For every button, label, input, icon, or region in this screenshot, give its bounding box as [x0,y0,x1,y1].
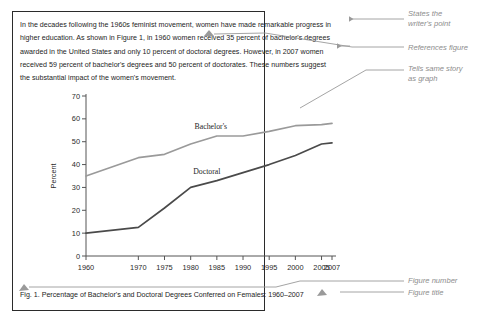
figure-caption: Fig. 1. Percentage of Bachelor's and Doc… [20,291,304,299]
y-tick-label: 0 [76,252,80,261]
x-tick-label: 1960 [78,263,94,272]
x-tick-label: 1970 [130,263,146,272]
y-tick-label: 60 [72,114,80,123]
figure-chart: 010203040506070Percent196019701975198019… [40,88,340,283]
x-tick-label: 1985 [209,263,225,272]
annotation-figure-title: Figure title [408,288,443,298]
y-tick-label: 50 [72,137,80,146]
x-tick-label: 1975 [156,263,172,272]
series-label-doctoral: Doctoral [193,167,221,176]
y-tick-label: 70 [72,92,80,101]
body-paragraph: In the decades following the 1960s femin… [20,19,332,86]
x-tick-label: 2000 [287,263,303,272]
y-tick-label: 30 [72,183,80,192]
y-tick-label: 40 [72,160,80,169]
x-tick-label: 1980 [182,263,198,272]
series-line-doctoral [86,143,332,233]
line-chart-svg: 010203040506070Percent196019701975198019… [40,88,340,283]
x-tick-label: 1995 [261,263,277,272]
annotation-figure-number: Figure number [408,276,457,286]
x-tick-label: 2007 [324,263,340,272]
screenshot-root: In the decades following the 1960s femin… [0,0,493,326]
annotation-states-point: States the writer's point [408,9,450,30]
x-tick-label: 1990 [235,263,251,272]
annotation-references-figure: References figure [408,43,468,53]
y-tick-label: 20 [72,206,80,215]
y-axis-title: Percent [49,164,58,189]
series-label-bachelors: Bachelor's [195,122,228,131]
arrowhead-figure-title [317,289,327,296]
y-tick-label: 10 [72,229,80,238]
annotation-tells-same-story: Tells same story as graph [408,64,463,85]
